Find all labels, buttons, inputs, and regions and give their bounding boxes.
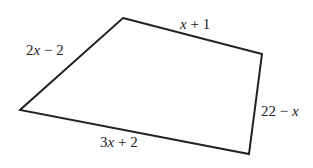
side-label-left: 2x − 2	[26, 43, 64, 58]
side-label-bottom: 3x + 2	[100, 135, 138, 150]
side-label-right: 22 − x	[261, 104, 299, 119]
quadrilateral	[20, 18, 262, 154]
quadrilateral-figure	[0, 0, 313, 168]
side-label-top: x + 1	[180, 17, 210, 32]
